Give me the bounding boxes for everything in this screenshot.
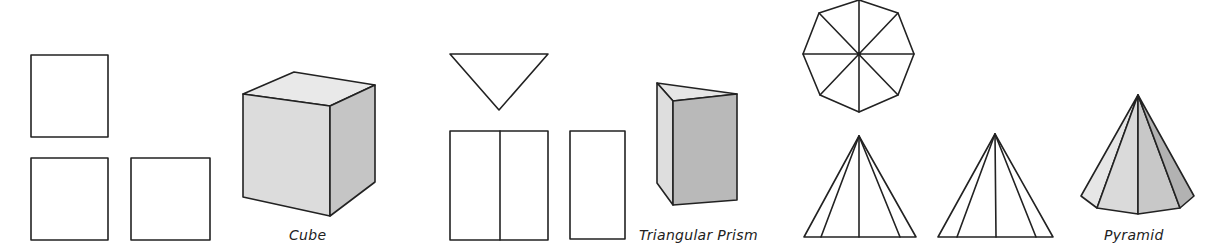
prism-left-face <box>657 83 673 205</box>
orthographic-projection-figure: Cube Triangular Prism <box>0 0 1209 250</box>
pyramid-top-view-octagon <box>803 0 914 112</box>
cube-right-face <box>330 85 375 216</box>
cube-front-face <box>243 94 330 216</box>
pyramid-side-view-triangle <box>938 134 1053 237</box>
cube-front-view-square <box>31 158 108 240</box>
cube-orthographic-views <box>31 55 210 240</box>
pyramid-face-2 <box>1097 95 1138 214</box>
prism-3d-drawing <box>657 83 737 205</box>
prism-orthographic-views <box>450 54 625 240</box>
figure-drawing: Cube Triangular Prism <box>0 0 1209 250</box>
cube-top-view-square <box>31 55 108 137</box>
prism-side-view-rectangle <box>570 131 625 239</box>
pyramid-label: Pyramid <box>1104 227 1164 243</box>
pyramid-3d-drawing <box>1081 95 1194 214</box>
pyramid-front-view-triangle <box>804 136 916 237</box>
prism-front-view-rectangle <box>450 131 548 240</box>
cube-3d-drawing <box>243 72 375 216</box>
cube-label: Cube <box>289 227 326 243</box>
prism-top-view-triangle <box>450 54 548 110</box>
pyramid-orthographic-views <box>803 0 1053 237</box>
prism-front-face <box>673 94 737 205</box>
triangular-prism-label: Triangular Prism <box>639 227 758 243</box>
cube-side-view-square <box>131 158 210 240</box>
